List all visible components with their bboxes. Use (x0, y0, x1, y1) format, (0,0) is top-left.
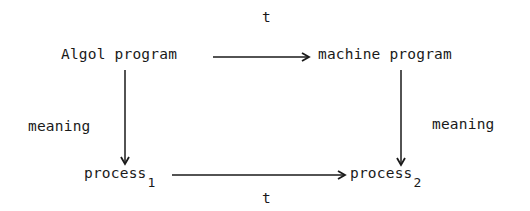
node-process-2: process2 (350, 166, 422, 181)
node-algol-program: Algol program (61, 47, 177, 62)
left-edge-label: meaning (28, 119, 91, 134)
node-process-1: process1 (84, 166, 156, 181)
bottom-edge-label: t (262, 191, 271, 206)
node-machine-program: machine program (318, 47, 452, 62)
arrows-layer (0, 0, 530, 211)
process-1-subscript: 1 (148, 175, 156, 190)
process-2-subscript: 2 (414, 175, 422, 190)
process-2-text: process (350, 165, 413, 181)
top-edge-label: t (262, 10, 271, 25)
process-1-text: process (84, 165, 147, 181)
right-edge-label: meaning (432, 117, 495, 132)
